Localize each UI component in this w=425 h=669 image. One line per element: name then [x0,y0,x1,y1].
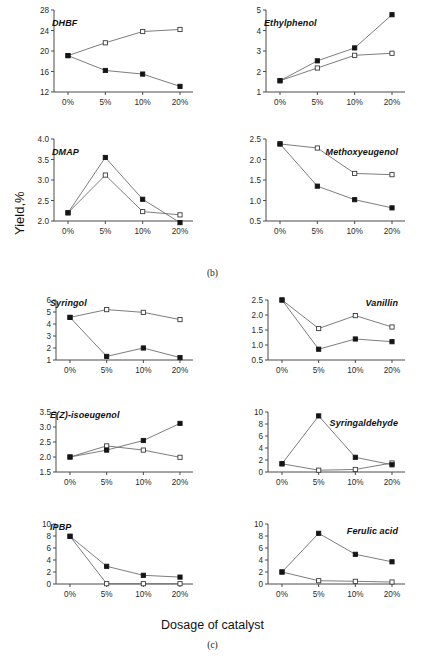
data-point-marker-filled [353,455,357,459]
series-line-open [280,53,392,80]
data-point-marker-open [390,51,394,55]
data-point-marker-filled [390,13,394,17]
data-point-marker-open [353,171,357,175]
data-point-marker-open [353,579,357,583]
data-point-marker-open [315,66,319,70]
data-point-marker-open [178,213,182,217]
y-tick-label: 1.0 [252,341,264,350]
x-tick-label: 10% [135,590,151,599]
y-tick-label: 0.5 [252,356,264,365]
y-tick-label: 2.0 [252,311,264,320]
data-point-marker-filled [105,564,109,568]
x-tick-label: 20% [384,98,400,107]
y-tick-label: 1.5 [250,176,262,185]
x-tick-label: 0% [64,590,76,599]
data-point-marker-open [178,455,182,459]
x-tick-label: 0% [276,590,288,599]
data-point-marker-filled [278,79,282,83]
y-tick-label: 0 [46,580,51,589]
y-tick-label: 6 [258,544,263,553]
y-tick-label: 0.5 [250,217,262,226]
x-tick-label: 10% [347,366,363,375]
x-tick-label: 20% [172,478,188,487]
y-tick-label: 3.0 [38,176,50,185]
y-tick-label: 2.5 [250,135,262,144]
x-tick-label: 5% [313,478,325,487]
data-point-marker-open [141,310,145,314]
y-tick-label: 4 [46,556,51,565]
x-tick-label: 0% [62,227,74,236]
y-tick-label: 4 [256,27,261,36]
data-point-marker-open [105,444,109,448]
data-point-marker-open [317,468,321,472]
x-tick-label: 5% [313,590,325,599]
x-tick-label: 5% [101,366,113,375]
x-tick-label: 10% [346,227,362,236]
series-line-filled [70,317,180,357]
x-tick-label: 0% [274,227,286,236]
x-tick-label: 0% [64,478,76,487]
data-point-marker-filled [280,570,284,574]
series-line-open [68,29,180,55]
x-tick-label: 5% [311,227,323,236]
data-point-marker-filled [141,346,145,350]
data-point-marker-open [103,173,107,177]
x-tick-label: 20% [384,590,400,599]
series-line-open [68,175,180,215]
data-point-marker-open [141,448,145,452]
y-tick-label: 1.5 [252,326,264,335]
caption-c: (c) [0,640,425,650]
data-point-marker-filled [353,46,357,50]
caption-b: (b) [0,268,425,278]
panel-title: Methoxyeugenol [0,147,398,157]
data-point-marker-filled [105,354,109,358]
panel-group-b: Yield,% (b) 12162024280%5%10%20%DHBF1234… [0,0,425,288]
data-point-marker-open [178,582,182,586]
x-tick-label: 5% [313,366,325,375]
chart-panel-syringol: 1234560%5%10%20% [30,296,194,392]
x-tick-label: 5% [99,227,111,236]
data-point-marker-filled [280,462,284,466]
data-point-marker-filled [66,211,70,215]
y-tick-label: 4 [258,556,263,565]
data-point-marker-filled [390,340,394,344]
data-point-marker-filled [68,315,72,319]
data-point-marker-filled [178,356,182,360]
data-point-marker-filled [390,206,394,210]
y-tick-label: 2 [258,568,263,577]
data-point-marker-filled [178,84,182,88]
x-tick-label: 10% [135,478,151,487]
x-tick-label: 5% [99,98,111,107]
data-point-marker-filled [390,560,394,564]
x-tick-label: 10% [134,227,150,236]
data-point-marker-open [141,582,145,586]
y-tick-label: 2.0 [40,453,52,462]
y-tick-label: 28 [40,6,50,15]
y-tick-label: 16 [40,68,50,77]
data-point-marker-open [390,173,394,177]
data-point-marker-open [353,53,357,57]
x-tick-label: 0% [276,478,288,487]
x-tick-label: 20% [384,227,400,236]
chart-panel-vanillin: 0.51.01.52.02.50%5%10%20% [242,296,406,392]
y-tick-label: 2.5 [38,197,50,206]
series-line-filled [68,157,180,222]
y-axis-title: Yield,% [12,191,27,235]
x-tick-label: 10% [346,98,362,107]
y-tick-label: 1.5 [40,468,52,477]
y-tick-label: 1 [46,356,51,365]
y-tick-label: 10 [254,408,264,417]
panel-title: Syringaldehyde [0,418,398,428]
data-point-marker-filled [105,448,109,452]
data-point-marker-filled [66,54,70,58]
series-line-open [282,463,392,470]
y-tick-label: 2 [46,568,51,577]
data-point-marker-filled [315,59,319,63]
panel-title: Ethylphenol [264,18,317,28]
y-tick-label: 1.0 [250,197,262,206]
y-tick-label: 4.0 [38,135,50,144]
x-tick-label: 0% [64,366,76,375]
y-tick-label: 0 [258,468,263,477]
data-point-marker-filled [141,438,145,442]
x-tick-label: 5% [311,98,323,107]
